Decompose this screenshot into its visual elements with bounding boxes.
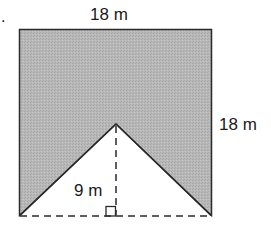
height-label: 9 m — [74, 182, 102, 199]
problem-bullet: . — [1, 9, 5, 25]
shaded-square-with-triangle-cutout — [0, 0, 271, 228]
right-angle-marker — [106, 207, 116, 217]
top-side-label: 18 m — [90, 6, 128, 23]
right-side-label: 18 m — [219, 116, 257, 133]
